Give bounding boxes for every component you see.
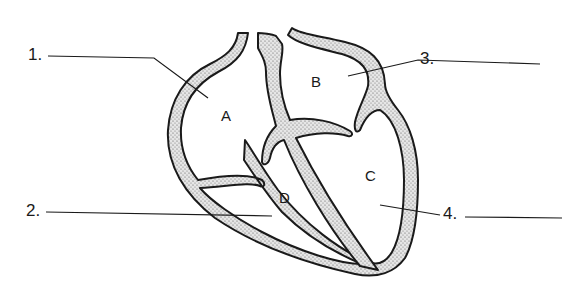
leader-line-2 [46,212,272,216]
heart-illustration [0,0,582,298]
chamber-label-a: A [221,108,231,123]
chamber-label-b: B [311,74,321,89]
chamber-label-c: C [365,168,376,183]
callout-3-number: 3. [420,50,434,67]
chamber-label-d: D [279,190,290,205]
callout-4-number: 4. [443,205,457,222]
callout-1-number: 1. [28,46,42,63]
heart-diagram: 1. 2. 3. 4. A B C D [0,0,582,298]
callout-2-number: 2. [26,202,40,219]
leader-line-4-blank [465,217,562,218]
